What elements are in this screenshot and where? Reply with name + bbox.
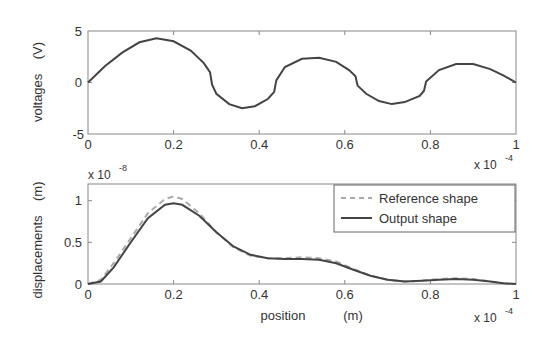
legend-reference-label: Reference shape <box>379 191 478 206</box>
voltage-ytick-5: 5 <box>75 24 82 39</box>
voltage-xtick: 0.4 <box>250 137 268 152</box>
voltage-xtick: 1 <box>512 137 519 152</box>
figure: 5 0 -5 0 0.2 0.4 0.6 0.8 1 x 10 -4 volta… <box>0 0 544 348</box>
voltage-xtick: 0.6 <box>336 137 354 152</box>
displacement-x-scale: x 10 <box>474 311 497 325</box>
displacement-ytick-0.5: 0.5 <box>64 235 82 250</box>
displacement-y-scale: x 10 <box>88 168 111 182</box>
displacement-x-scale-exponent: -4 <box>505 306 513 316</box>
legend: Reference shape Output shape <box>334 185 515 232</box>
displacement-y-scale-exponent: -8 <box>119 163 127 173</box>
displacement-ytick-1: 1 <box>75 193 82 208</box>
displacement-xlabel-name: position <box>261 308 306 323</box>
voltage-ytick-0: 0 <box>75 75 82 90</box>
displacement-ytick-0: 0 <box>75 277 82 292</box>
displacement-xtick: 1 <box>512 287 519 302</box>
displacement-plot: 1 0.5 0 x 10 -8 0 0.2 0.4 0.6 0.8 1 posi… <box>30 163 520 325</box>
displacement-xtick: 0.8 <box>421 287 439 302</box>
voltage-xtick: 0.2 <box>165 137 183 152</box>
voltage-plot: 5 0 -5 0 0.2 0.4 0.6 0.8 1 x 10 -4 volta… <box>30 24 520 172</box>
voltage-xtick: 0 <box>84 137 91 152</box>
displacement-xtick: 0 <box>84 287 91 302</box>
voltage-plot-frame <box>88 31 516 134</box>
voltage-x-scale: x 10 <box>474 158 497 172</box>
voltage-ylabel: voltages (V) <box>30 42 45 122</box>
displacement-xlabel-unit: (m) <box>343 308 363 323</box>
displacement-xtick: 0.2 <box>165 287 183 302</box>
legend-output-label: Output shape <box>379 211 457 226</box>
voltage-ytick-neg5: -5 <box>72 127 84 142</box>
displacement-xtick: 0.6 <box>336 287 354 302</box>
voltage-xtick: 0.8 <box>421 137 439 152</box>
voltage-x-scale-exponent: -4 <box>505 153 513 163</box>
displacement-xtick: 0.4 <box>250 287 268 302</box>
displacement-ylabel: displacements (m) <box>30 181 45 298</box>
